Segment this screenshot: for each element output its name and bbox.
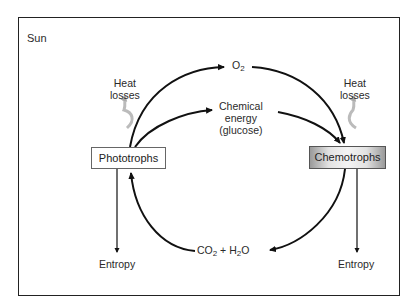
heat-losses-right: Heat losses — [340, 77, 370, 101]
chemotrophs-node: Chemotrophs — [309, 146, 386, 169]
phototrophs-node: Phototrophs — [91, 147, 166, 169]
arrow-co2-to-photo — [131, 173, 195, 251]
arrow-energy-to-chemo — [278, 112, 340, 143]
entropy-right-label: Entropy — [338, 258, 374, 270]
arrow-photo-to-o2 — [130, 67, 224, 147]
arrow-photo-to-energy — [135, 110, 212, 147]
arrow-chemo-to-co2 — [270, 169, 345, 250]
co2-h2o-label: CO2 + H2O — [197, 244, 249, 256]
chemical-energy-label: Chemical energy (glucose) — [219, 100, 263, 136]
heat-losses-left: Heat losses — [110, 77, 140, 101]
entropy-left-label: Entropy — [99, 258, 135, 270]
oxygen-label: O2 — [232, 59, 245, 71]
arrow-o2-to-chemo — [252, 67, 344, 143]
